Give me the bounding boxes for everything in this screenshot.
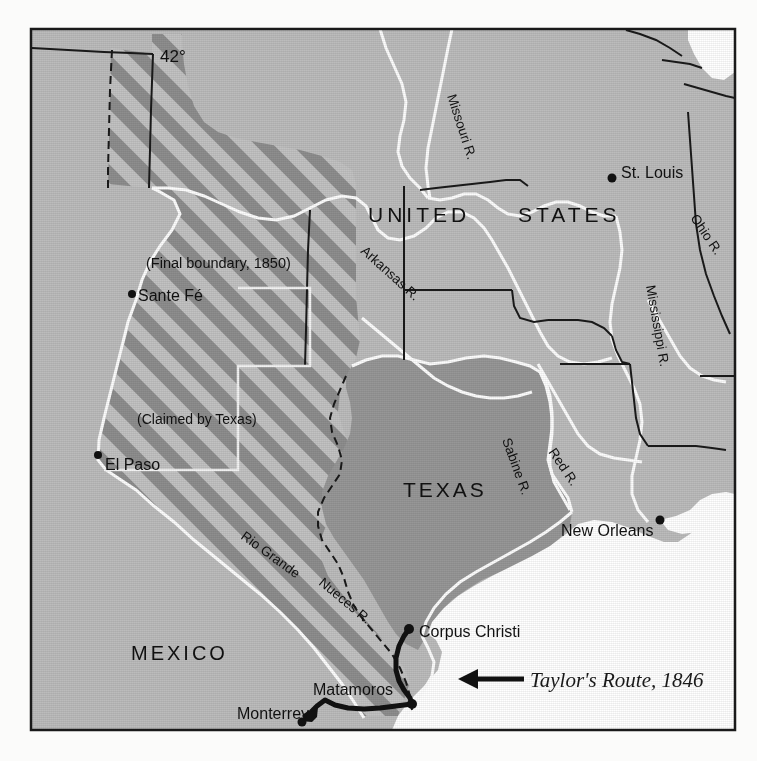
map-body: 42° UNITED STATES TEXAS MEXICO (Final bo… [31,29,735,730]
city-dot-sante-fe [128,290,136,298]
map-canvas: 42° UNITED STATES TEXAS MEXICO (Final bo… [0,0,757,761]
historical-map-figure: 42° UNITED STATES TEXAS MEXICO (Final bo… [0,0,757,761]
city-dot-matamoros [407,699,417,709]
label-new-orleans: New Orleans [561,522,653,539]
label-mexico: MEXICO [131,642,228,664]
city-dot-el-paso [94,451,102,459]
label-claimed-by-texas: (Claimed by Texas) [137,411,257,427]
label-el-paso: El Paso [105,456,160,473]
city-dot-corpus-christi [404,624,414,634]
label-states: STATES [518,203,621,226]
label-final-boundary: (Final boundary, 1850) [146,255,291,271]
legend-route-label: Taylor's Route, 1846 [530,668,704,692]
label-texas: TEXAS [403,478,487,501]
city-dot-new-orleans [656,516,665,525]
label-united: UNITED [368,203,470,226]
label-monterrey: Monterrey [237,705,309,722]
oregon-boundary-hatch-strip [108,48,153,188]
label-sante-fe: Sante Fé [138,287,203,304]
city-dot-st-louis [608,174,617,183]
label-matamoros: Matamoros [313,681,393,698]
label-st-louis: St. Louis [621,164,683,181]
label-corpus-christi: Corpus Christi [419,623,520,640]
label-latitude-42: 42° [160,47,186,66]
